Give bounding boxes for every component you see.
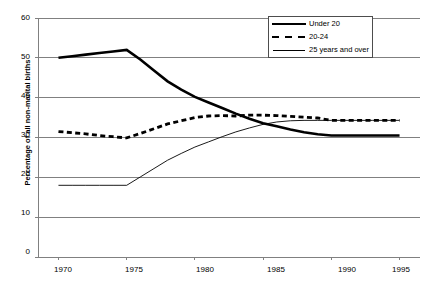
legend-label-under-20: Under 20 xyxy=(309,19,340,28)
legend-swatch-thick-dashed-icon xyxy=(272,32,306,42)
legend-swatch-thick-solid-icon xyxy=(272,19,306,29)
legend-item-20-24: 20-24 xyxy=(269,30,372,43)
series-line-25-years-and-over xyxy=(58,120,399,185)
series-line-under-20 xyxy=(58,50,399,136)
chart-legend: Under 20 20-24 25 years and over xyxy=(268,16,373,58)
legend-label-25-and-over: 25 years and over xyxy=(309,45,369,54)
data-series xyxy=(58,50,399,185)
chart-container: Percentage of all non-marital births 60 … xyxy=(0,0,427,283)
legend-label-20-24: 20-24 xyxy=(309,32,328,41)
legend-item-under-20: Under 20 xyxy=(269,17,372,30)
legend-item-25-and-over: 25 years and over xyxy=(269,43,372,56)
legend-swatch-thin-solid-icon xyxy=(272,45,306,55)
